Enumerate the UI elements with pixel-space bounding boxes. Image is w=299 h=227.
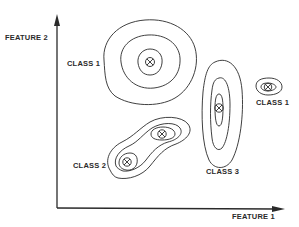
centroid-icon <box>123 158 131 166</box>
x-axis <box>57 208 276 209</box>
centroid-icon <box>158 130 166 138</box>
y-axis-arrow-icon <box>54 14 60 26</box>
cluster-class2 <box>108 117 190 178</box>
feature-space-diagram: FEATURE 2 FEATURE 1 CLASS 1 CLASS 1 <box>0 0 299 227</box>
diagram-svg: FEATURE 2 FEATURE 1 CLASS 1 CLASS 1 <box>0 0 299 227</box>
y-axis-label: FEATURE 2 <box>5 33 48 42</box>
centroid-icon <box>264 83 272 91</box>
cluster-label-class1-large: CLASS 1 <box>67 59 100 68</box>
cluster-label-class2: CLASS 2 <box>73 161 106 170</box>
x-axis-label: FEATURE 1 <box>232 212 275 221</box>
contour-outer <box>202 60 242 167</box>
cluster-label-class3: CLASS 3 <box>206 167 239 176</box>
contour-inner-lower <box>119 153 137 170</box>
cluster-class1-large <box>104 20 197 105</box>
cluster-class1-small <box>256 78 282 95</box>
axes <box>54 14 285 212</box>
cluster-class3 <box>202 60 242 167</box>
cluster-label-class1-small: CLASS 1 <box>256 98 289 107</box>
contour-middle <box>211 78 231 150</box>
centroid-icon <box>146 58 155 67</box>
centroid-icon <box>215 104 223 112</box>
contour-inner <box>215 94 223 126</box>
